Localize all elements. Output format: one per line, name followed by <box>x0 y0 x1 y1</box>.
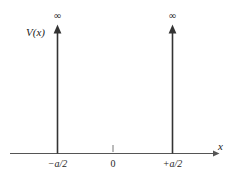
y-axis-label: V(x) <box>26 27 45 38</box>
right-infinity-annotation: ∞ <box>168 11 176 21</box>
left-infinity-annotation: ∞ <box>53 11 61 21</box>
x-tick-label-minus-a-over-2: −a/2 <box>48 159 68 169</box>
right-barrier-arrowhead <box>169 25 177 34</box>
potential-well-figure: V(x) x ∞ ∞ −a/2 0 +a/2 <box>0 0 232 175</box>
left-barrier-arrowhead <box>54 25 62 34</box>
x-tick-label-plus-a-over-2: +a/2 <box>163 159 183 169</box>
x-tick-label-zero: 0 <box>111 159 116 169</box>
x-axis-label: x <box>218 141 223 152</box>
